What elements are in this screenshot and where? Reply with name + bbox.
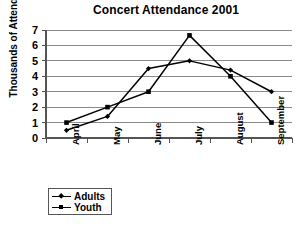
plot-area <box>0 0 305 230</box>
x-tick-label-april: April <box>71 123 81 145</box>
series-line-youth <box>67 35 272 122</box>
data-point-adults-july <box>187 58 192 63</box>
data-point-youth-june <box>146 89 151 94</box>
x-tick-label-may: May <box>112 127 122 145</box>
data-point-adults-april <box>64 128 69 133</box>
legend-item-youth: Youth <box>52 202 102 213</box>
y-tick-label: 7 <box>24 25 38 36</box>
data-point-youth-july <box>187 33 192 38</box>
y-axis-title: Thousands of Attendees <box>8 0 19 98</box>
chart-container: Concert Attendance 2001 Thousands of Att… <box>0 0 305 230</box>
legend-item-adults: Adults <box>52 191 105 202</box>
legend-marker-square-icon <box>52 203 71 212</box>
x-tick-label-june: June <box>153 123 163 145</box>
x-tick-label-september: September <box>276 96 286 145</box>
y-tick-label: 2 <box>24 102 38 113</box>
data-point-youth-may <box>105 105 110 110</box>
x-tick-label-august: August <box>235 112 245 145</box>
legend-marker-diamond-icon <box>52 192 71 201</box>
data-point-youth-september <box>269 120 274 125</box>
y-tick-label: 5 <box>24 56 38 67</box>
x-tick-label-july: July <box>194 126 204 145</box>
y-tick-label: 1 <box>24 118 38 129</box>
y-tick-label: 4 <box>24 71 38 82</box>
data-point-adults-september <box>269 89 274 94</box>
data-point-youth-april <box>64 120 69 125</box>
data-point-adults-august <box>228 68 233 73</box>
y-tick-label: 6 <box>24 40 38 51</box>
y-tick-label: 0 <box>24 133 38 144</box>
chart-legend: Adults Youth <box>48 188 112 215</box>
legend-label-adults: Adults <box>71 192 105 202</box>
chart-title: Concert Attendance 2001 <box>40 3 292 17</box>
y-tick-label: 3 <box>24 87 38 98</box>
legend-label-youth: Youth <box>71 203 102 213</box>
data-point-youth-august <box>228 74 233 79</box>
